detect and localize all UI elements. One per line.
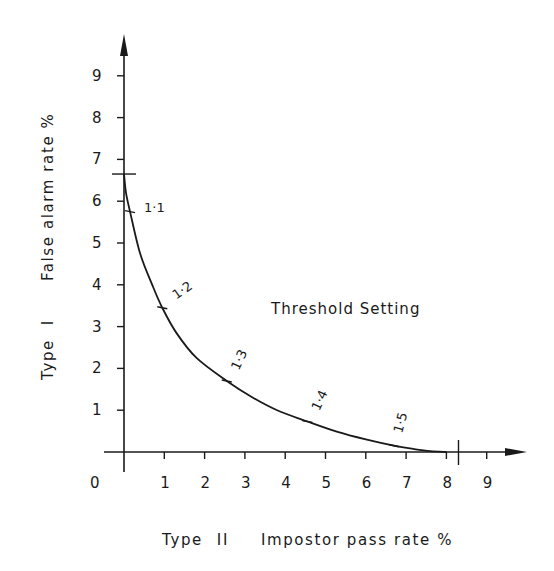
- x-axis-label-text: Impostor pass rate %: [261, 531, 453, 549]
- y-axis-arrow-icon: [120, 34, 128, 56]
- threshold-setting-chart: 123456789123456789 1·11·21·31·41·5 Thres…: [0, 0, 554, 571]
- threshold-setting-annotation: Threshold Setting: [270, 300, 420, 318]
- y-tick-label: 9: [92, 67, 102, 85]
- axis-ticks: [112, 76, 487, 465]
- y-tick-label: 1: [92, 401, 102, 419]
- x-axis-label-prefix: Type: [161, 531, 203, 549]
- threshold-point-label: 1·2: [169, 278, 195, 302]
- y-axis-label-prefix: Type: [39, 339, 57, 381]
- threshold-point-label: 1·3: [228, 347, 250, 372]
- x-tick-label: 8: [442, 474, 452, 492]
- threshold-markers: [125, 211, 399, 447]
- threshold-point-label: 1·1: [144, 200, 165, 215]
- threshold-point-label: 1·4: [308, 388, 330, 413]
- threshold-point-label: 1·5: [390, 411, 410, 435]
- threshold-marker: [222, 380, 232, 382]
- x-tick-label: 5: [322, 474, 332, 492]
- y-tick-label: 8: [92, 109, 102, 127]
- threshold-marker: [125, 211, 135, 213]
- svg-text:TypeIFalse alarm rate %: TypeIFalse alarm rate %: [39, 113, 57, 381]
- origin-label: 0: [90, 474, 100, 492]
- x-tick-label: 4: [281, 474, 291, 492]
- y-axis-label-numeral: I: [39, 319, 57, 325]
- x-axis-arrow-icon: [505, 448, 527, 456]
- x-tick-label: 9: [483, 474, 493, 492]
- x-tick-label: 7: [402, 474, 412, 492]
- x-tick-label: 3: [241, 474, 251, 492]
- tick-labels: 123456789123456789: [92, 67, 492, 492]
- y-axis-label: TypeIFalse alarm rate %: [39, 113, 57, 381]
- x-axis-label-numeral: II: [217, 531, 229, 549]
- x-tick-label: 1: [160, 474, 170, 492]
- y-tick-label: 7: [92, 150, 102, 168]
- x-axis-label: TypeIIImpostor pass rate %: [161, 531, 453, 549]
- y-tick-label: 4: [92, 276, 102, 294]
- threshold-marker: [389, 445, 399, 447]
- y-tick-label: 5: [92, 234, 102, 252]
- y-tick-label: 6: [92, 192, 102, 210]
- y-axis-label-text: False alarm rate %: [39, 113, 57, 282]
- y-tick-label: 2: [92, 359, 102, 377]
- threshold-marker: [157, 307, 167, 309]
- threshold-marker: [302, 420, 312, 422]
- y-tick-label: 3: [92, 318, 102, 336]
- x-tick-label: 2: [201, 474, 211, 492]
- x-tick-label: 6: [362, 474, 372, 492]
